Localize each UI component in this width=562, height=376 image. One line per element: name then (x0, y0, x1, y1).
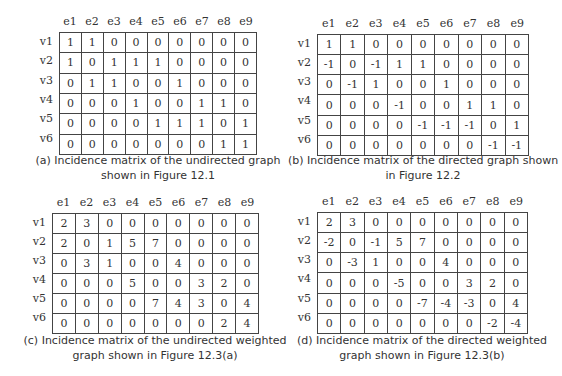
matrix-cell: -5 (387, 273, 410, 293)
matrix-cell: -3 (341, 253, 364, 273)
matrix-row: 110000000 (318, 35, 529, 55)
matrix-cell: -4 (504, 313, 527, 333)
matrix-cell: 0 (98, 274, 121, 294)
matrix-cell: 0 (81, 93, 103, 113)
matrix-cell: 2 (213, 314, 236, 334)
matrix-cell: 0 (505, 55, 529, 75)
matrix-cell: 7 (144, 234, 167, 254)
matrix-cell: 0 (457, 253, 480, 273)
matrix-row: 0-31004000 (318, 253, 528, 273)
caption-line: shown in Figure 12.1 (18, 168, 298, 183)
matrix-cell: 1 (458, 95, 481, 115)
matrix-cell: 0 (144, 314, 167, 334)
matrix-cell: 0 (190, 214, 213, 234)
matrix-cell: 1 (81, 73, 103, 93)
matrix-cell: 0 (481, 293, 504, 313)
matrix-cell: 0 (213, 214, 236, 234)
row-header: v6 (22, 308, 46, 327)
column-header: e5 (147, 15, 169, 28)
matrix-cell: 1 (103, 73, 125, 93)
matrix-cell: 1 (235, 134, 257, 154)
matrix-cell: -1 (318, 55, 341, 75)
matrix-row: 000011101 (60, 114, 257, 134)
matrix-cell: 0 (98, 214, 121, 234)
matrix-row: 230000000 (53, 214, 259, 234)
incidence-matrix: 2300000002015700000310040000005003200000… (52, 213, 259, 334)
matrix-row: -20-1570000 (318, 233, 528, 253)
matrix-cell: 0 (147, 33, 169, 53)
column-header: e2 (340, 195, 363, 208)
column-header: e4 (121, 196, 144, 209)
panel-caption: (d) Incidence matrix of the directed wei… (282, 333, 562, 363)
row-header: v3 (29, 71, 53, 90)
matrix-cell: 4 (167, 294, 190, 314)
matrix-cell: 0 (236, 234, 259, 254)
matrix-row: 011001000 (60, 73, 257, 93)
matrix-cell: 0 (81, 53, 103, 73)
row-header: v5 (22, 289, 46, 308)
matrix-cell: 0 (103, 114, 125, 134)
matrix-cell: 5 (387, 233, 410, 253)
incidence-matrix: 230000000-20-15700000-31004000000-500320… (317, 212, 528, 334)
matrix-cell: 0 (213, 73, 235, 93)
matrix-cell: 0 (169, 33, 191, 53)
matrix-cell: 0 (482, 115, 505, 135)
matrix-cell: 0 (213, 234, 236, 254)
matrix-cell: -2 (318, 233, 341, 253)
matrix-cell: 0 (458, 35, 481, 55)
matrix-cell: 0 (125, 73, 147, 93)
matrix-cell: 0 (481, 253, 504, 273)
matrix-cell: 1 (435, 75, 458, 95)
matrix-cell: 3 (75, 254, 98, 274)
matrix-cell: 1 (191, 93, 213, 113)
matrix-cell: 0 (167, 274, 190, 294)
matrix-cell: 0 (435, 55, 458, 75)
matrix-cell: 0 (190, 234, 213, 254)
column-header: e9 (505, 17, 529, 30)
matrix-cell: 4 (236, 294, 259, 314)
column-header: e3 (364, 195, 387, 208)
matrix-cell: 0 (411, 75, 434, 95)
matrix-cell: 4 (236, 314, 259, 334)
row-header: v1 (29, 32, 53, 51)
matrix-cell: 0 (318, 293, 341, 313)
matrix-cell: 1 (482, 95, 505, 115)
matrix-cell: 0 (169, 53, 191, 73)
column-headers: e1e2e3e4e5e6e7e8e9 (52, 196, 259, 209)
column-header: e1 (59, 15, 81, 28)
matrix-cell: 0 (411, 213, 434, 233)
matrix-cell: 0 (167, 234, 190, 254)
matrix-row: 000100110 (60, 93, 257, 113)
matrix-cell: 0 (125, 33, 147, 53)
matrix-cell: 0 (457, 313, 480, 333)
row-header: v6 (29, 129, 53, 148)
row-headers: v1v2v3v4v5v6 (287, 34, 311, 149)
matrix-cell: 7 (144, 294, 167, 314)
column-header: e7 (458, 17, 482, 30)
column-header: e5 (144, 196, 167, 209)
panel-caption: (a) Incidence matrix of the undirected g… (18, 153, 298, 183)
matrix-cell: 0 (144, 214, 167, 234)
caption-line: (a) Incidence matrix of the undirected g… (18, 153, 298, 168)
row-header: v2 (29, 51, 53, 70)
matrix-cell: 0 (434, 273, 457, 293)
matrix-cell: 0 (167, 314, 190, 334)
column-header: e7 (458, 195, 481, 208)
panel-caption: (b) Incidence matrix of the directed gra… (283, 153, 562, 183)
matrix-row: 000-500320 (318, 273, 528, 293)
matrix-cell: 2 (213, 274, 236, 294)
matrix-cell: 5 (121, 274, 144, 294)
matrix-cell: 0 (235, 53, 257, 73)
column-header: e2 (81, 15, 103, 28)
matrix-cell: 0 (364, 213, 387, 233)
row-headers: v1v2v3v4v5v6 (287, 212, 311, 327)
matrix-cell: 0 (144, 254, 167, 274)
matrix-cell: 0 (364, 293, 387, 313)
matrix-cell: 0 (103, 93, 125, 113)
matrix-cell: 0 (121, 254, 144, 274)
matrix-cell: 4 (434, 253, 457, 273)
column-header: e8 (213, 15, 235, 28)
matrix-cell: 0 (213, 53, 235, 73)
matrix-cell: 0 (75, 274, 98, 294)
matrix-cell: 1 (364, 75, 387, 95)
